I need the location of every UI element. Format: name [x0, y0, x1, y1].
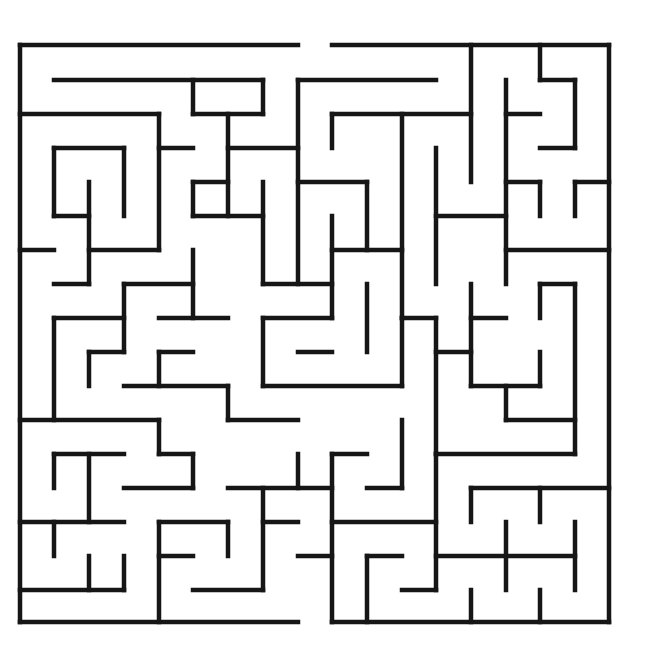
maze-puzzle	[0, 0, 653, 658]
maze-walls	[0, 0, 653, 658]
